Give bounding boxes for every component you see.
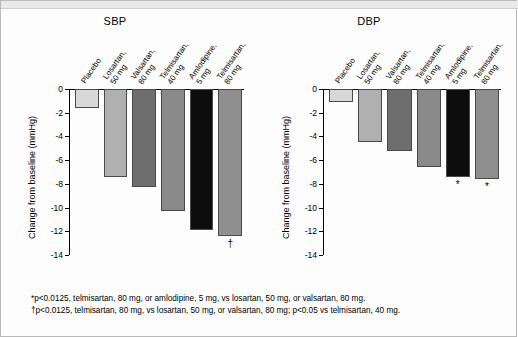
y-tick-label: -6 — [55, 156, 63, 164]
bar-category-label: Placebo — [80, 57, 104, 86]
y-tick-label: -8 — [55, 180, 63, 188]
plot-area-sbp: PlaceboLosartan,50 mgValsartan,80 mgTelm… — [69, 89, 244, 255]
bar — [417, 89, 441, 167]
y-tick-label: -10 — [305, 204, 317, 212]
y-tick-label: 0 — [58, 85, 63, 93]
bar-item: Amlodipine,5 mg — [190, 89, 214, 255]
significance-marker: † — [227, 239, 233, 249]
y-tick-label: -14 — [51, 251, 63, 259]
bar-item: Telmisartan,40 mg — [161, 89, 185, 255]
y-axis-sbp — [69, 89, 70, 255]
bar-category-label: Telmisartan,80 mg — [216, 41, 255, 86]
y-tick — [319, 136, 323, 137]
y-tick — [319, 113, 323, 114]
y-tick-label: -12 — [305, 227, 317, 235]
y-tick — [319, 89, 323, 90]
bar-category-label: Telmisartan,80 mg — [473, 41, 512, 86]
y-tick-label: -2 — [309, 109, 317, 117]
y-tick-label: -8 — [309, 180, 317, 188]
y-tick — [319, 160, 323, 161]
bar — [132, 89, 156, 187]
bar — [387, 89, 411, 151]
y-tick-label: -12 — [51, 227, 63, 235]
bar-item: Placebo — [329, 89, 353, 255]
y-tick — [319, 255, 323, 256]
y-tick — [65, 136, 69, 137]
bar — [75, 89, 99, 108]
bar — [329, 89, 353, 102]
bar-item: Telmisartan,80 mg* — [475, 89, 499, 255]
bar-group-dbp: PlaceboLosartan,50 mgValsartan,80 mgTelm… — [329, 89, 499, 255]
y-tick-label: -14 — [305, 251, 317, 259]
y-tick — [65, 184, 69, 185]
y-tick-label: -6 — [309, 156, 317, 164]
bar — [475, 89, 499, 179]
chart-panel-dbp: DBP Change from baseline (mmHg) PlaceboL… — [259, 11, 511, 291]
footnote-line: †p<0.0125, telmisartan, 80 mg, vs losart… — [31, 305, 501, 317]
y-tick — [319, 231, 323, 232]
y-tick — [65, 89, 69, 90]
y-tick — [65, 231, 69, 232]
y-tick — [65, 255, 69, 256]
y-tick-label: -4 — [309, 132, 317, 140]
y-tick — [319, 184, 323, 185]
significance-marker: * — [456, 180, 460, 190]
bar-category-label: Placebo — [334, 57, 358, 86]
chart-panel-sbp: SBP Change from baseline (mmHg) PlaceboL… — [7, 11, 257, 291]
bar-category-label: Valsartan,80 mg — [385, 47, 419, 86]
bar-item: Losartan,50 mg — [104, 89, 128, 255]
y-tick — [65, 208, 69, 209]
bar-item: Valsartan,80 mg — [387, 89, 411, 255]
bar-item: Telmisartan,40 mg — [417, 89, 441, 255]
y-tick-label: 0 — [312, 85, 317, 93]
y-tick — [65, 113, 69, 114]
top-strip — [1, 1, 518, 9]
bar-item: Placebo — [75, 89, 99, 255]
y-tick — [319, 208, 323, 209]
bar-item: Telmisartan,80 mg† — [218, 89, 242, 255]
bar — [104, 89, 128, 177]
y-tick-label: -2 — [55, 109, 63, 117]
panel-title-sbp: SBP — [15, 15, 215, 27]
bar — [358, 89, 382, 142]
bar — [218, 89, 242, 236]
bar-item: Losartan,50 mg — [358, 89, 382, 255]
significance-marker: * — [485, 182, 489, 192]
y-tick-label: -10 — [51, 204, 63, 212]
plot-area-dbp: PlaceboLosartan,50 mgValsartan,80 mgTelm… — [323, 89, 501, 255]
bar — [190, 89, 214, 230]
bar-category-label: Losartan,50 mg — [356, 49, 389, 86]
bar-category-label: Valsartan,80 mg — [130, 47, 164, 86]
y-axis-label-sbp: Change from baseline (mmHg) — [27, 116, 37, 239]
bar-category-label: Losartan,50 mg — [101, 49, 134, 86]
bar — [446, 89, 470, 177]
bar-item: Valsartan,80 mg — [132, 89, 156, 255]
panel-title-dbp: DBP — [269, 15, 469, 27]
bar-group-sbp: PlaceboLosartan,50 mgValsartan,80 mgTelm… — [75, 89, 242, 255]
y-tick — [65, 160, 69, 161]
footnote-line: *p<0.0125, telmisartan, 80 mg, or amlodi… — [31, 293, 501, 305]
bar-item: Amlodipine,5 mg* — [446, 89, 470, 255]
footnotes: *p<0.0125, telmisartan, 80 mg, or amlodi… — [31, 293, 501, 316]
y-tick-label: -4 — [55, 132, 63, 140]
y-axis-label-dbp: Change from baseline (mmHg) — [281, 116, 291, 239]
bar — [161, 89, 185, 211]
y-axis-dbp — [323, 89, 324, 255]
